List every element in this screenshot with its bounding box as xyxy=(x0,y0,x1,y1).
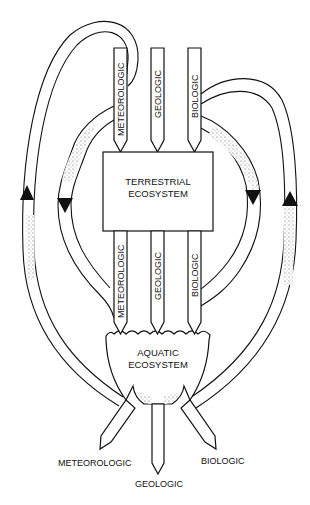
terrestrial-output-biologic: BIOLOGIC xyxy=(188,231,201,334)
terrestrial-label: TERRESTRIAL xyxy=(125,176,190,187)
aquatic-output-label-geologic: GEOLOGIC xyxy=(135,479,184,489)
aquatic-output-label-meteorologic: METEOROLOGIC xyxy=(58,458,132,468)
terrestrial-label-2: ECOSYSTEM xyxy=(128,188,188,199)
output-label-meteorologic: METEOROLOGIC xyxy=(116,244,126,318)
up-arrow-icon xyxy=(20,185,34,200)
input-label-biologic: BIOLOGIC xyxy=(190,74,200,118)
aquatic-output-meteorologic xyxy=(100,400,135,449)
ecosystem-diagram: METEOROLOGIC GEOLOGIC BIOLOGIC TERRESTRI… xyxy=(0,0,310,505)
terrestrial-input-meteorologic: METEOROLOGIC xyxy=(114,48,127,152)
aquatic-ecosystem-shape: AQUATIC ECOSYSTEM xyxy=(106,331,210,404)
input-label-meteorologic: METEOROLOGIC xyxy=(116,62,126,136)
terrestrial-input-geologic: GEOLOGIC xyxy=(151,48,164,152)
aquatic-output-geologic xyxy=(152,404,164,474)
terrestrial-output-meteorologic: METEOROLOGIC xyxy=(114,231,127,334)
aquatic-label-2: ECOSYSTEM xyxy=(128,359,188,370)
input-label-geologic: GEOLOGIC xyxy=(153,69,163,118)
terrestrial-ecosystem-box: TERRESTRIAL ECOSYSTEM xyxy=(103,152,213,231)
aquatic-label: AQUATIC xyxy=(137,347,179,358)
terrestrial-input-biologic: BIOLOGIC xyxy=(188,48,201,152)
aquatic-output-label-biologic: BIOLOGIC xyxy=(201,456,245,466)
output-label-biologic: BIOLOGIC xyxy=(190,253,200,297)
terrestrial-output-geologic: GEOLOGIC xyxy=(151,231,164,334)
aquatic-output-biologic xyxy=(181,400,216,449)
output-label-geologic: GEOLOGIC xyxy=(153,251,163,300)
